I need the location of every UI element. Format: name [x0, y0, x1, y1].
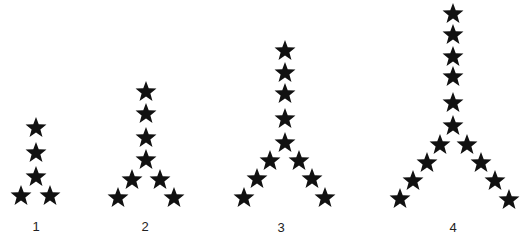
star-pattern-diagram: 1 2 3 4: [0, 0, 527, 240]
star-icon: [11, 185, 32, 205]
star-icon: [275, 62, 296, 82]
star-icon: [26, 117, 47, 137]
star-icon: [275, 108, 296, 128]
star-icon: [443, 66, 464, 86]
star-icon: [443, 115, 464, 135]
star-icon: [471, 152, 492, 172]
star-icon: [108, 187, 129, 207]
star-icon: [315, 187, 336, 207]
figure-2: [108, 81, 185, 207]
star-icon: [122, 169, 143, 189]
star-icon: [275, 132, 296, 152]
star-icon: [443, 46, 464, 66]
figure-label-2: 2: [141, 220, 148, 233]
star-icon: [430, 134, 451, 154]
star-icon: [417, 152, 438, 172]
star-icon: [443, 24, 464, 44]
star-icon: [485, 170, 506, 190]
star-icon: [443, 92, 464, 112]
figure-3: [234, 40, 336, 207]
star-icon: [443, 3, 464, 23]
star-icon: [457, 134, 478, 154]
star-icon: [40, 185, 61, 205]
star-icon: [275, 40, 296, 60]
star-icon: [26, 142, 47, 162]
star-icon: [136, 127, 157, 147]
star-icon: [302, 168, 323, 188]
stars-layer: [0, 0, 527, 240]
star-icon: [136, 103, 157, 123]
figure-label-1: 1: [32, 220, 39, 233]
star-icon: [136, 81, 157, 101]
star-icon: [26, 166, 47, 186]
star-icon: [390, 188, 411, 208]
figure-label-3: 3: [277, 221, 284, 234]
star-icon: [150, 169, 171, 189]
star-icon: [403, 170, 424, 190]
star-icon: [164, 187, 185, 207]
star-icon: [136, 149, 157, 169]
figure-1: [11, 117, 61, 205]
figure-label-4: 4: [449, 221, 456, 234]
star-icon: [234, 187, 255, 207]
star-icon: [260, 150, 281, 170]
star-icon: [289, 150, 310, 170]
star-icon: [499, 189, 520, 209]
star-icon: [275, 83, 296, 103]
figure-4: [390, 3, 520, 209]
star-icon: [247, 168, 268, 188]
